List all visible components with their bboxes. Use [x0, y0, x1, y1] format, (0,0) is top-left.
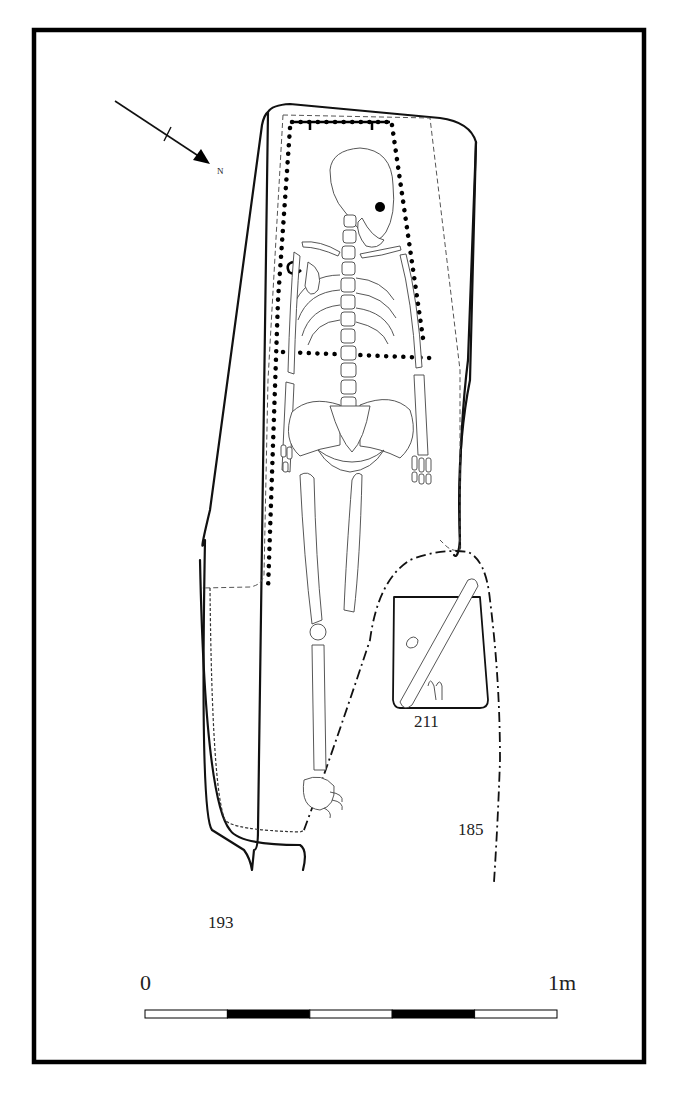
context-label-193: 193 — [208, 913, 234, 932]
patella-right — [310, 624, 326, 640]
scale-segment-1 — [145, 1010, 227, 1018]
scale-bar: 0 1m — [140, 970, 576, 1018]
tibia-right — [312, 645, 326, 770]
north-arrow-head-icon — [193, 149, 210, 164]
grave-plan-figure: N — [0, 0, 676, 1107]
clavicle-left — [360, 246, 401, 258]
forearm-left — [414, 375, 428, 455]
grave-plan-drawing: N — [0, 0, 676, 1107]
grave-cut-193-outline-south — [200, 560, 305, 870]
grave-cut-193-outline — [202, 104, 476, 870]
humerus-right — [288, 252, 300, 374]
scale-start-label: 0 — [140, 970, 151, 995]
coffin-stain-south-side — [268, 128, 290, 590]
pubis — [318, 450, 384, 472]
context-label-211: 211 — [414, 712, 439, 731]
coffin-head-board — [292, 122, 390, 130]
hand-left — [412, 456, 431, 484]
coffin-stain-cross-board — [283, 352, 432, 358]
scale-segment-4 — [392, 1010, 474, 1018]
north-arrow-shaft — [115, 101, 200, 157]
north-arrow: N — [115, 101, 224, 176]
context-label-185: 185 — [458, 820, 484, 839]
skeleton — [281, 148, 478, 818]
femur-right — [300, 473, 322, 624]
scale-segment-3 — [310, 1010, 392, 1018]
scale-end-label: 1m — [548, 970, 576, 995]
foot-right — [303, 777, 334, 810]
vertebral-column — [341, 215, 356, 411]
coffin-stain-north-side — [392, 125, 424, 345]
metatarsal-fragments — [428, 681, 442, 700]
scale-segment-2 — [227, 1010, 309, 1018]
femur-left — [344, 473, 362, 612]
scale-segment-5 — [475, 1010, 557, 1018]
skull-orbit — [375, 202, 385, 212]
scapula-right — [305, 262, 320, 294]
bone-fragment — [406, 637, 418, 648]
north-label: N — [217, 166, 224, 176]
grave-cut-193-outline-east — [460, 142, 476, 548]
grave-inner-edge-dashed-west — [202, 115, 283, 588]
clavicle-right — [302, 242, 340, 256]
